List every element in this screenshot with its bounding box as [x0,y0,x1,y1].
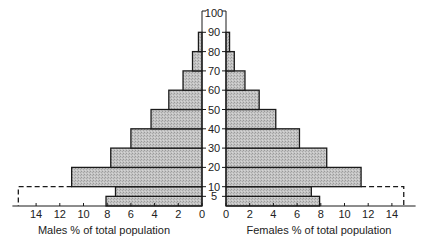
female-bar [226,129,299,148]
male-axis-title: Males % of total population [38,224,170,236]
male-x-tick-label: 4 [152,208,158,220]
age-tick-label: 10 [208,181,220,193]
male-bar [198,32,202,51]
female-bar [226,32,230,51]
female-bar [226,110,276,129]
female-bar [226,187,311,197]
male-x-tick-label: 10 [77,208,89,220]
female-x-tick-label: 2 [247,208,253,220]
female-axis-title: Females % of total population [247,224,392,236]
population-pyramid-chart: 5102030405060708090100 14121086420024681… [0,0,422,241]
female-bar [226,196,320,206]
male-bar [183,71,202,90]
male-bar [72,167,202,186]
female-x-tick-label: 4 [270,208,276,220]
male-dashed-line [18,187,71,206]
female-bar [226,71,245,90]
female-x-tick-label: 12 [362,208,374,220]
age-tick-label: 80 [208,46,220,58]
male-x-tick-label: 8 [104,208,110,220]
male-bar [169,90,202,109]
female-bar [226,90,259,109]
age-tick-label: 90 [208,26,220,38]
male-x-tick-label: 0 [199,208,205,220]
age-tick-label: 30 [208,142,220,154]
male-x-tick-label: 14 [30,208,42,220]
female-x-tick-label: 8 [318,208,324,220]
male-bar [131,129,202,148]
male-x-tick-label: 2 [175,208,181,220]
age-tick-label: 60 [208,84,220,96]
female-x-tick-label: 14 [386,208,398,220]
age-tick-label: 40 [208,123,220,135]
male-bar [115,187,202,197]
male-x-tick-label: 6 [128,208,134,220]
female-x-tick-label: 6 [294,208,300,220]
age-tick-label: 70 [208,65,220,77]
female-bar [226,52,234,71]
age-tick-label: 100 [205,7,223,19]
male-bars [72,32,202,206]
age-tick-label: 20 [208,161,220,173]
female-bars [226,32,361,206]
age-axis: 5102030405060708090100 [202,7,226,206]
percent-axes: 1412108642002468101214 [12,203,415,220]
female-dashed-line [361,187,404,206]
female-x-tick-label: 0 [223,208,229,220]
female-bar [226,167,361,186]
male-bar [151,110,202,129]
male-bar [111,148,202,167]
female-bar [226,148,327,167]
age-tick-label: 50 [208,104,220,116]
female-x-tick-label: 10 [338,208,350,220]
male-bar [106,196,202,206]
male-bar [193,52,202,71]
male-x-tick-label: 12 [54,208,66,220]
